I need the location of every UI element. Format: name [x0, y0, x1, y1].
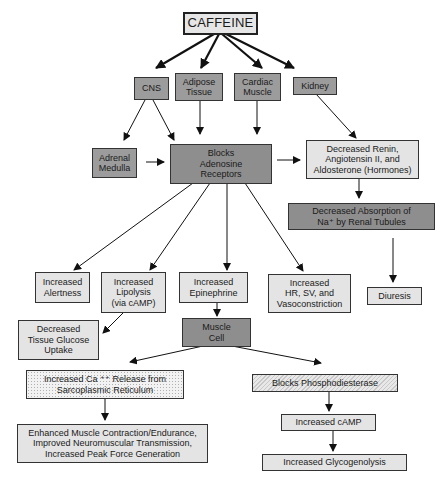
node-increased-calcium-release: Increased Ca ⁺⁺ Release from Sarcoplasmi… — [26, 370, 184, 399]
node-enhanced-muscle-contraction: Enhanced Muscle Contraction/Endurance, I… — [17, 424, 208, 463]
node-increased-hr-sv: Increased HR, SV, and Vasoconstriction — [268, 274, 351, 313]
node-increased-alertness: Increased Alertness — [35, 272, 90, 303]
node-adipose-tissue: Adipose Tissue — [175, 73, 223, 101]
node-blocks-adenosine-receptors: Blocks Adenosine Receptors — [170, 144, 272, 184]
node-kidney: Kidney — [293, 77, 337, 95]
node-caffeine: CAFFEINE — [183, 12, 258, 35]
node-decreased-sodium-absorption: Decreased Absorption of Na⁺ by Renal Tub… — [288, 203, 435, 230]
node-adrenal-medulla: Adrenal Medulla — [92, 148, 137, 178]
node-cardiac-muscle: Cardiac Muscle — [234, 73, 281, 101]
node-muscle-cell: Muscle Cell — [182, 318, 251, 347]
node-increased-epinephrine: Increased Epinephrine — [179, 272, 248, 303]
node-decreased-renin: Decreased Renin, Angiotensin II, and Ald… — [306, 140, 419, 179]
node-diuresis: Diuresis — [367, 287, 422, 305]
node-increased-glycogenolysis: Increased Glycogenolysis — [262, 454, 407, 471]
node-increased-camp: Increased cAMP — [281, 414, 376, 431]
node-decreased-tissue-glucose-uptake: Decreased Tissue Glucose Uptake — [18, 320, 99, 360]
caffeine-diagram: CAFFEINE CNS Adipose Tissue Cardiac Musc… — [0, 0, 448, 486]
connector-lines — [0, 0, 448, 486]
node-cns: CNS — [134, 77, 169, 100]
node-increased-lipolysis: Increased Lipolysis (via cAMP) — [101, 272, 166, 313]
node-blocks-phosphodiesterase: Blocks Phosphodiesterase — [252, 374, 398, 392]
